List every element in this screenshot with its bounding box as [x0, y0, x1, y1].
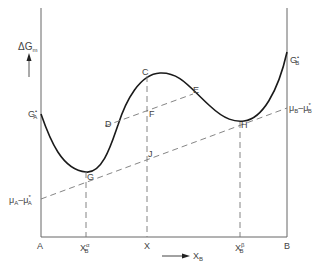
label-A: A — [37, 242, 43, 251]
point-D-label: D — [105, 120, 112, 129]
point-F-label: F — [149, 110, 155, 119]
label-XB-beta: XβB — [235, 242, 243, 254]
x-axis-label: XB — [193, 252, 203, 262]
y-axis-label: ΔGm — [18, 42, 37, 53]
diagram-canvas — [0, 0, 326, 265]
common-tangent-line — [41, 108, 287, 199]
label-muA-minus-muA-star: μA–μ*A — [9, 194, 32, 206]
point-J-label: J — [148, 150, 153, 159]
point-C-label: C — [142, 68, 149, 77]
label-XB-alpha: XαB — [80, 242, 89, 254]
label-B: B — [284, 242, 290, 251]
y-arrow-head-icon — [27, 53, 32, 61]
point-E-label: E — [193, 86, 199, 95]
label-X: X — [144, 242, 150, 251]
label-GA: G•A — [28, 108, 37, 120]
label-muB-minus-muB-star: μB–μ*B — [289, 102, 312, 114]
point-H-label: H — [241, 121, 248, 130]
x-arrow-head-icon — [182, 254, 190, 259]
point-G-label: G — [87, 173, 94, 182]
free-energy-curve — [41, 52, 287, 172]
label-GB: G•B — [290, 54, 299, 66]
